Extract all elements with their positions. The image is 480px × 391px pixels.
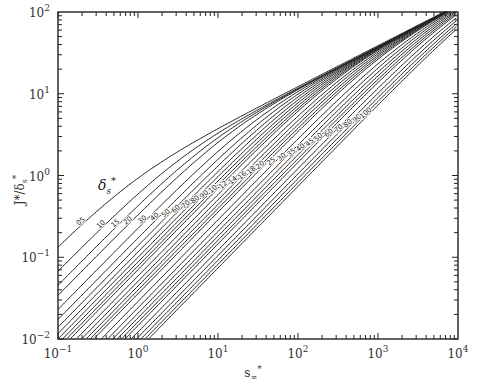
svg-text:101: 101: [207, 344, 228, 361]
svg-text:100: 100: [29, 167, 50, 184]
svg-text:104: 104: [447, 344, 468, 361]
curve-label: 10: [95, 219, 107, 231]
curve-10: [71, 12, 445, 338]
svg-text:100: 100: [127, 344, 148, 361]
svg-text:10−1: 10−1: [44, 344, 73, 361]
curve-1.5: [58, 12, 447, 286]
curve-35: [112, 12, 454, 340]
curve-label: 20: [122, 215, 134, 227]
curve-label: 30: [136, 214, 148, 226]
curve-family: [58, 12, 456, 340]
svg-text:102: 102: [287, 344, 308, 361]
curve-100: [149, 29, 456, 338]
curve-20: [95, 12, 449, 338]
curve-16: [87, 12, 447, 338]
param-label: δs*: [98, 175, 116, 196]
svg-text:102: 102: [29, 3, 50, 20]
curve-9.0: [68, 12, 446, 338]
svg-text:103: 103: [367, 344, 388, 361]
chart: 0510152030405060708090101214161820253035…: [0, 0, 480, 391]
svg-text:101: 101: [29, 85, 50, 102]
y-axis-label: J*/δs*: [11, 174, 29, 207]
curve-40: [117, 12, 456, 339]
curve-45: [122, 13, 456, 338]
svg-text:10−1: 10−1: [21, 248, 50, 265]
curve-label: 05: [75, 215, 87, 227]
svg-text:10−2: 10−2: [21, 330, 50, 347]
curve-14: [82, 12, 447, 339]
x-axis-label: s∞*: [244, 364, 262, 382]
curve-50: [125, 15, 456, 339]
